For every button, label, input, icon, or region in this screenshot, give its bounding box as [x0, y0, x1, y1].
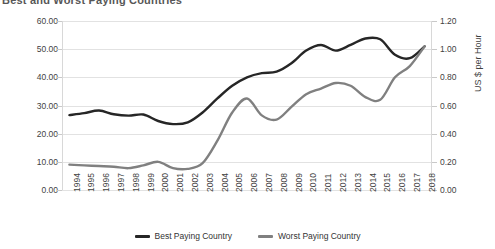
x-axis-tick-label: 2005	[235, 173, 244, 192]
chart-title: Best and Worst Paying Countries	[2, 0, 182, 6]
legend-label: Best Paying Country	[155, 232, 232, 241]
plot-area	[62, 21, 432, 190]
legend-label: Worst Paying Country	[278, 232, 361, 241]
y-axis-right-tickmark	[432, 134, 437, 135]
y-axis-left-tick-label: 0.00	[41, 186, 58, 195]
series-line	[69, 38, 424, 125]
y-axis-right-tick-label: 0.60	[440, 102, 457, 111]
legend-item[interactable]: Best Paying Country	[135, 232, 232, 241]
y-axis-left-tick-label: 40.00	[37, 73, 58, 82]
legend-swatch	[258, 235, 273, 238]
legend-item[interactable]: Worst Paying Country	[258, 232, 361, 241]
y-axis-right-tick-label: 0.00	[440, 186, 457, 195]
y-axis-right-tick-label: 1.20	[440, 17, 457, 26]
x-axis-tick-label: 1996	[102, 173, 111, 192]
x-axis-tick-label: 2004	[221, 173, 230, 192]
chart-title-clipped: Best and Worst Paying Countries	[0, 0, 495, 7]
x-axis-tick-label: 2009	[295, 173, 304, 192]
y-axis-right-tickmark	[432, 162, 437, 163]
y-axis-left-tick-label: 10.00	[37, 158, 58, 167]
chart-container: Best and Worst Paying Countries US $ per…	[0, 0, 495, 249]
y-axis-right-tickmark	[432, 77, 437, 78]
x-axis-tick-label: 2018	[428, 173, 437, 192]
x-axis-tick-label: 2011	[324, 174, 333, 192]
y-axis-right-tickmark	[432, 106, 437, 107]
x-axis-tick-label: 2010	[309, 173, 318, 192]
series-line	[69, 46, 424, 169]
x-axis-tick-label: 2016	[398, 173, 407, 192]
x-axis-tick-label: 1995	[87, 173, 96, 192]
series-lines	[62, 21, 432, 190]
legend-swatch	[135, 235, 150, 238]
x-axis-tick-label: 2001	[176, 173, 185, 192]
y-axis-right-tick-label: 0.20	[440, 158, 457, 167]
x-axis-tick-label: 2014	[369, 173, 378, 192]
y-axis-right-tickmark	[432, 49, 437, 50]
x-axis-tick-label: 2007	[265, 173, 274, 192]
x-axis-tick-label: 2013	[354, 173, 363, 192]
y-axis-right-tick-label: 0.80	[440, 73, 457, 82]
y-axis-left-tick-label: 50.00	[37, 45, 58, 54]
y-axis-right-tick-label: 1.00	[440, 45, 457, 54]
x-axis-tick-label: 2017	[413, 173, 422, 192]
x-axis-tick-label: 1998	[132, 173, 141, 192]
x-axis-tick-labels: 1994199519961997199819992000200120022003…	[62, 192, 432, 232]
x-axis-tick-label: 2012	[339, 173, 348, 192]
y-axis-right-tick-label: 0.40	[440, 130, 457, 139]
x-axis-tick-label: 2002	[191, 173, 200, 192]
y-axis-left-tick-label: 20.00	[37, 130, 58, 139]
y-axis-right-title: US $ per Hour	[474, 34, 483, 92]
y-axis-right-tickmark	[432, 21, 437, 22]
x-axis-tick-label: 2015	[383, 173, 392, 192]
x-axis-tick-label: 1994	[73, 173, 82, 192]
x-axis-tick-label: 2000	[161, 173, 170, 192]
y-axis-left-tick-label: 60.00	[37, 17, 58, 26]
x-axis-tick-label: 2003	[206, 173, 215, 192]
y-axis-left-tick-label: 30.00	[37, 102, 58, 111]
x-axis-tick-label: 1997	[117, 173, 126, 192]
x-axis-tick-label: 1999	[147, 173, 156, 192]
x-axis-tick-label: 2006	[250, 173, 259, 192]
chart-legend: Best Paying CountryWorst Paying Country	[0, 232, 495, 241]
x-axis-tick-label: 2008	[280, 173, 289, 192]
